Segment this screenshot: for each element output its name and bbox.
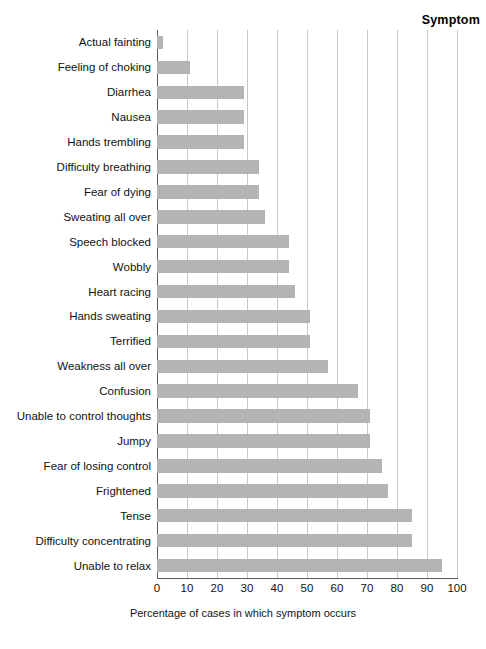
x-tick-label-70: 70 xyxy=(361,582,374,594)
x-tick-label-100: 100 xyxy=(447,582,466,594)
bar xyxy=(157,559,442,573)
bar-row xyxy=(157,36,457,50)
category-label: Tense xyxy=(0,510,151,522)
category-label: Fear of dying xyxy=(0,186,151,198)
category-label: Fear of losing control xyxy=(0,460,151,472)
x-tick-label-80: 80 xyxy=(391,582,404,594)
bar xyxy=(157,509,412,523)
x-tick-label-50: 50 xyxy=(301,582,314,594)
gridline-100 xyxy=(457,30,458,578)
x-axis-title: Percentage of cases in which symptom occ… xyxy=(0,607,486,619)
category-label: Hands sweating xyxy=(0,310,151,322)
bar-row xyxy=(157,409,457,423)
category-label: Unable to control thoughts xyxy=(0,410,151,422)
bar-row xyxy=(157,534,457,548)
bar-row xyxy=(157,285,457,299)
bar-row xyxy=(157,61,457,75)
bar-row xyxy=(157,235,457,249)
category-label: Jumpy xyxy=(0,435,151,447)
category-label: Unable to relax xyxy=(0,560,151,572)
bar-row xyxy=(157,434,457,448)
x-tick-label-20: 20 xyxy=(211,582,224,594)
x-tick-label-90: 90 xyxy=(421,582,434,594)
category-label: Actual fainting xyxy=(0,36,151,48)
bar xyxy=(157,135,244,149)
category-label: Heart racing xyxy=(0,286,151,298)
plot-area xyxy=(157,30,457,578)
bar xyxy=(157,384,358,398)
category-label: Difficulty concentrating xyxy=(0,535,151,547)
bar xyxy=(157,110,244,124)
bar-row xyxy=(157,384,457,398)
bar-row xyxy=(157,86,457,100)
bar xyxy=(157,86,244,100)
bar-row xyxy=(157,459,457,473)
bar xyxy=(157,285,295,299)
x-tick-label-60: 60 xyxy=(331,582,344,594)
bar-row xyxy=(157,559,457,573)
bar xyxy=(157,335,310,349)
bar-series xyxy=(157,30,457,578)
category-label: Difficulty breathing xyxy=(0,161,151,173)
bar xyxy=(157,235,289,249)
bar-row xyxy=(157,160,457,174)
bar xyxy=(157,185,259,199)
bar xyxy=(157,534,412,548)
bar xyxy=(157,409,370,423)
bar-row xyxy=(157,360,457,374)
bar-row xyxy=(157,135,457,149)
bar-row xyxy=(157,185,457,199)
category-label: Wobbly xyxy=(0,261,151,273)
category-label: Terrified xyxy=(0,335,151,347)
bar xyxy=(157,434,370,448)
category-label: Diarrhea xyxy=(0,86,151,98)
x-tick-label-40: 40 xyxy=(271,582,284,594)
category-label: Hands trembling xyxy=(0,136,151,148)
bar-row xyxy=(157,509,457,523)
category-label: Nausea xyxy=(0,111,151,123)
bar-row xyxy=(157,260,457,274)
bar xyxy=(157,360,328,374)
category-label: Speech blocked xyxy=(0,236,151,248)
bar-row xyxy=(157,110,457,124)
bar xyxy=(157,310,310,324)
category-axis-labels: Actual faintingFeeling of chokingDiarrhe… xyxy=(0,30,151,578)
category-label: Sweating all over xyxy=(0,211,151,223)
bar xyxy=(157,260,289,274)
bar xyxy=(157,61,190,75)
category-label: Feeling of choking xyxy=(0,61,151,73)
x-tick-label-10: 10 xyxy=(181,582,194,594)
category-label: Weakness all over xyxy=(0,360,151,372)
bar xyxy=(157,484,388,498)
bar-row xyxy=(157,310,457,324)
column-header-symptom: Symptom xyxy=(422,13,480,27)
bar-row xyxy=(157,484,457,498)
x-tick-label-0: 0 xyxy=(154,582,160,594)
bar-row xyxy=(157,335,457,349)
x-axis-tick-labels: 0102030405060708090100 xyxy=(0,582,486,600)
bar-chart: Symptom Actual faintingFeeling of chokin… xyxy=(0,0,486,649)
x-tick-label-30: 30 xyxy=(241,582,254,594)
bar xyxy=(157,160,259,174)
x-axis-line xyxy=(157,578,458,579)
bar xyxy=(157,36,163,50)
category-label: Frightened xyxy=(0,485,151,497)
category-label: Confusion xyxy=(0,385,151,397)
bar-row xyxy=(157,210,457,224)
bar xyxy=(157,459,382,473)
bar xyxy=(157,210,265,224)
